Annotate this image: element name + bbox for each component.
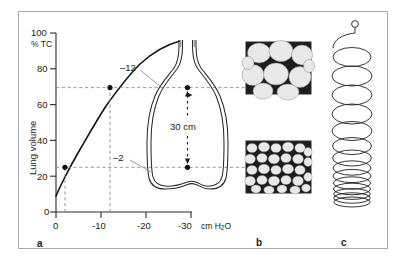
- x-axis-unit: cm H2O: [201, 222, 231, 232]
- lung-height-label: 30 cm: [170, 122, 196, 132]
- y-tick-100: 100: [31, 28, 47, 38]
- apex-pressure-label: –12: [120, 63, 136, 73]
- x-axis-unit-post: O: [224, 221, 231, 231]
- x-tick-minus20: -20: [137, 221, 151, 231]
- x-tick-0: 0: [53, 221, 58, 231]
- y-tick-0: 0: [44, 207, 49, 217]
- spring-hook: [352, 21, 359, 28]
- spring-coil: [332, 21, 372, 207]
- panel-label-c: c: [341, 238, 347, 248]
- x-tick-minus30: -30: [178, 221, 192, 231]
- panel-label-a: a: [37, 239, 43, 249]
- y-axis-unit: % TC: [31, 40, 52, 49]
- y-tick-80: 80: [37, 64, 48, 74]
- x-tick-minus10: -10: [92, 221, 106, 231]
- y-axis-title: Lung volume: [28, 121, 38, 175]
- x-axis-unit-main: cm H: [201, 221, 221, 231]
- y-tick-20: 20: [37, 172, 48, 182]
- figure-root: 100 % TC 80 60 40 20 0 0 -10 -20 -30 cm …: [0, 0, 403, 267]
- base-pressure-label: –2: [113, 153, 124, 163]
- y-tick-60: 60: [37, 100, 48, 110]
- y-tick-40: 40: [37, 136, 48, 146]
- panel-label-b: b: [256, 238, 262, 248]
